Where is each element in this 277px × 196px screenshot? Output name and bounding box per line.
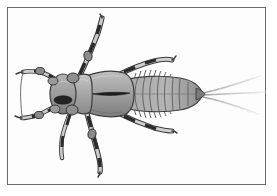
caudal-filaments-group — [203, 76, 265, 114]
coxa-lower-left — [66, 105, 78, 115]
trochanter-upper-left — [36, 67, 45, 74]
cercus-lower — [203, 97, 258, 114]
cercus-setae — [212, 79, 257, 113]
leg-mid-left — [61, 108, 72, 158]
eye-patch — [54, 96, 72, 104]
cercus-middle — [203, 92, 265, 95]
foreleg-connector — [21, 73, 23, 117]
abdomen-tip — [196, 88, 205, 100]
figure-root: aquatic insect nymph, dorsal view graysc… — [0, 0, 277, 196]
trochanter-lower-left — [35, 111, 44, 118]
coxa-upper-left — [67, 73, 79, 83]
leg-foreleft-raised — [78, 14, 102, 79]
coxa-lower-mid — [50, 105, 60, 113]
leg-mid-right-lower — [118, 113, 177, 133]
insect-illustration — [0, 0, 277, 196]
leg-mid-right-upper — [118, 56, 176, 75]
leg-hind-left-lower — [86, 110, 100, 177]
coxa-upper-mid — [48, 77, 58, 85]
cercus-upper — [203, 76, 260, 93]
